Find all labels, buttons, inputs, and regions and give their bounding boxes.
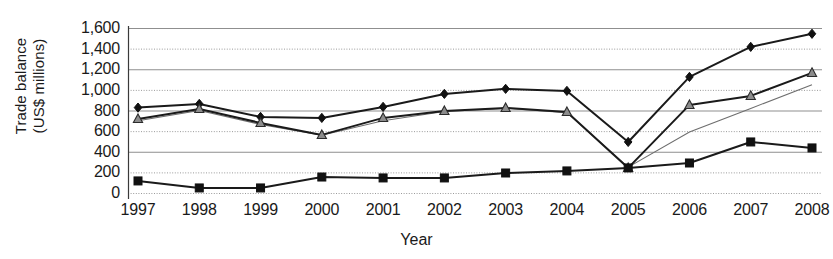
marker-square-2002 bbox=[440, 174, 448, 182]
marker-triangle-2008 bbox=[807, 68, 816, 77]
marker-square-1997 bbox=[134, 177, 142, 185]
x-tick-2008: 2008 bbox=[795, 202, 830, 218]
marker-square-2006 bbox=[685, 159, 693, 167]
x-axis-title: Year bbox=[0, 232, 833, 248]
x-tick-2002: 2002 bbox=[427, 202, 462, 218]
line-series-triangle bbox=[138, 73, 812, 168]
marker-diamond-2001 bbox=[379, 102, 387, 111]
marker-square-2000 bbox=[318, 173, 326, 181]
x-tick-2006: 2006 bbox=[672, 202, 707, 218]
x-tick-2004: 2004 bbox=[550, 202, 585, 218]
line-series-square bbox=[138, 142, 812, 188]
marker-diamond-2007 bbox=[747, 42, 755, 51]
marker-square-2005 bbox=[624, 164, 632, 172]
line-series-diamond bbox=[138, 34, 812, 142]
x-tick-2000: 2000 bbox=[304, 202, 339, 218]
plot-area bbox=[0, 0, 833, 259]
marker-square-2004 bbox=[563, 167, 571, 175]
marker-square-2001 bbox=[379, 174, 387, 182]
x-tick-2005: 2005 bbox=[611, 202, 646, 218]
x-tick-2003: 2003 bbox=[488, 202, 523, 218]
chart-figure: Trade balance (US$ millions) 02004006008… bbox=[0, 0, 833, 259]
marker-square-2008 bbox=[808, 144, 816, 152]
chart-canvas bbox=[0, 0, 833, 259]
marker-diamond-2000 bbox=[318, 113, 326, 122]
x-tick-1999: 1999 bbox=[243, 202, 278, 218]
marker-square-2007 bbox=[747, 138, 755, 146]
marker-square-2003 bbox=[502, 169, 510, 177]
marker-diamond-2002 bbox=[441, 89, 449, 98]
marker-diamond-2008 bbox=[808, 29, 816, 38]
x-tick-1998: 1998 bbox=[182, 202, 217, 218]
marker-square-1999 bbox=[257, 184, 265, 192]
marker-diamond-2003 bbox=[502, 84, 510, 93]
x-tick-2001: 2001 bbox=[366, 202, 401, 218]
x-tick-1997: 1997 bbox=[121, 202, 156, 218]
marker-square-1998 bbox=[195, 184, 203, 192]
x-tick-2007: 2007 bbox=[733, 202, 768, 218]
